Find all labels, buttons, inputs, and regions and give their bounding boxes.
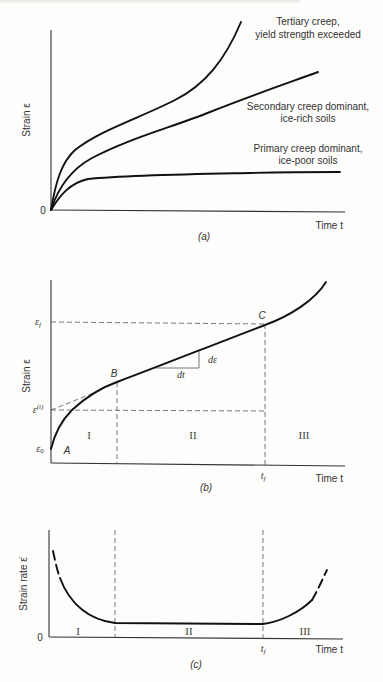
panel-a-x-axis-label: Time t [316,220,344,231]
annotation-primary-line2: ice-poor soils [279,155,338,166]
panel-c-y-axis-label: Strain rate ε̇ [18,556,29,610]
point-a-label: A [63,445,71,456]
point-c-label: C [258,310,266,321]
eps-f-label: εf [35,316,42,329]
secondary-creep-curve [51,72,318,210]
panel-c: 0 Strain rate ε̇ I II III tf Time t (c) [18,530,343,670]
t-f-label: tf [261,470,267,483]
strain-rate-curve-end-dashed [312,570,327,600]
creep-diagram: 0 Strain ε Time t (a) Tertiary creep, yi… [0,0,383,682]
annotation-secondary-line2: ice-rich soils [280,113,335,124]
primary-creep-curve [51,172,340,210]
region-ii-label: II [189,429,197,441]
strain-rate-curve [60,578,312,624]
panel-a-x-axis [51,210,345,212]
panel-b-x-axis [51,463,345,466]
panel-a-y-axis-label: Strain ε [21,103,32,137]
region-ii-label-c: II [185,625,193,637]
creep-curve-b [51,282,326,449]
eps-i-label: ε(i) [33,403,44,415]
point-b-label: B [111,368,118,379]
secondary-extrapolation-guide [51,392,96,410]
panel-a-caption: (a) [198,231,210,242]
annotation-primary-line1: Primary creep dominant, [254,143,363,154]
region-i-label-c: I [76,625,80,637]
strain-rate-curve-start-dashed [53,551,60,578]
t-f-label-c: tf [261,643,267,656]
eps-f-guide [51,322,265,324]
panel-c-caption: (c) [190,659,202,670]
panel-c-origin-label: 0 [37,632,43,643]
eps-0-label: ε0 [36,443,44,455]
region-iii-label: III [299,429,310,441]
panel-a: 0 Strain ε Time t (a) Tertiary creep, yi… [21,16,369,242]
dt-label: dt [177,369,185,380]
d-eps-label: dε [208,354,217,365]
panel-c-x-axis [49,637,343,639]
panel-b: εf ε(i) ε0 Strain ε A B C dε dt I II III… [21,280,345,493]
panel-a-origin-label: 0 [40,205,46,216]
panel-b-x-axis-label: Time t [316,473,344,484]
panel-b-y-axis-label: Strain ε [21,359,32,393]
region-i-label: I [87,429,91,441]
eps-i-guide [51,410,265,411]
panel-c-x-axis-label: Time t [316,644,344,655]
annotation-secondary-line1: Secondary creep dominant, [247,101,369,112]
region-iii-label-c: III [300,625,311,637]
annotation-tertiary-line1: Tertiary creep, [276,16,339,27]
panel-b-caption: (b) [200,482,212,493]
annotation-tertiary-line2: yield strength exceeded [255,29,361,40]
